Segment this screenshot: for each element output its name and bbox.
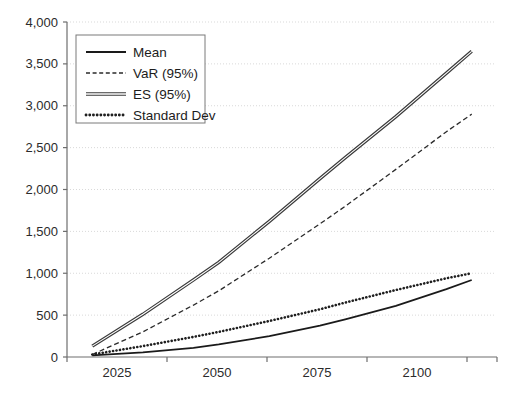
- y-tick-label: 0: [51, 350, 58, 365]
- y-tick-label: 1,500: [25, 224, 58, 239]
- y-axis-tick-labels: 05001,0001,5002,0002,5003,0003,5004,000: [25, 15, 58, 365]
- y-tick-label: 3,500: [25, 56, 58, 71]
- x-tick-label: 2100: [403, 365, 432, 380]
- y-tick-label: 1,000: [25, 266, 58, 281]
- chart-canvas: 05001,0001,5002,0002,5003,0003,5004,000 …: [0, 0, 517, 397]
- y-tick-label: 2,000: [25, 182, 58, 197]
- x-axis-tick-labels: 2025205020752100: [103, 365, 432, 380]
- legend-label: Standard Dev: [133, 108, 216, 123]
- x-tick-label: 2025: [103, 365, 132, 380]
- series-line-standard-dev: [92, 273, 471, 354]
- legend-label: VaR (95%): [133, 66, 198, 81]
- y-tick-label: 2,500: [25, 140, 58, 155]
- legend-label: Mean: [133, 45, 167, 60]
- y-tick-label: 3,000: [25, 98, 58, 113]
- line-chart: 05001,0001,5002,0002,5003,0003,5004,000 …: [0, 0, 517, 397]
- x-tick-label: 2075: [303, 365, 332, 380]
- y-tick-label: 500: [36, 308, 58, 323]
- legend-label: ES (95%): [133, 87, 191, 102]
- x-tick-label: 2050: [203, 365, 232, 380]
- y-tick-label: 4,000: [25, 15, 58, 30]
- chart-legend: MeanVaR (95%)ES (95%)Standard Dev: [76, 35, 216, 123]
